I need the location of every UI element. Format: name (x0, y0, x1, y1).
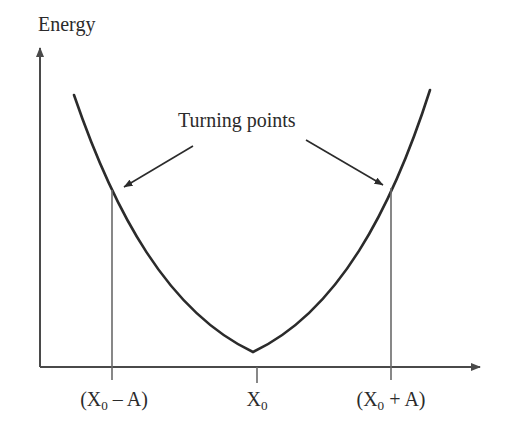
turning-points-annotation: Turning points (178, 110, 296, 130)
energy-parabola-figure: Energy Turning points (X0 – A) X0 (X0 + … (0, 0, 505, 437)
annotation-arrow-left (124, 146, 193, 187)
x-tick-label-left: (X0 – A) (62, 389, 166, 409)
x-tick-label-right: (X0 + A) (339, 389, 443, 409)
x-tick-left-suffix: – A) (108, 388, 148, 410)
x-tick-left-prefix: (X (80, 388, 101, 410)
y-axis-label: Energy (38, 14, 95, 34)
x-tick-label-center: X0 (225, 389, 289, 409)
x-tick-right-subscript: 0 (378, 398, 385, 413)
annotation-arrow-right (306, 140, 383, 185)
x-tick-right-suffix: + A) (384, 388, 425, 410)
x-tick-left-subscript: 0 (101, 398, 108, 413)
x-tick-center-prefix: X (246, 388, 260, 410)
figure-canvas (0, 0, 505, 437)
x-tick-center-subscript: 0 (261, 398, 268, 413)
x-tick-right-prefix: (X (357, 388, 378, 410)
